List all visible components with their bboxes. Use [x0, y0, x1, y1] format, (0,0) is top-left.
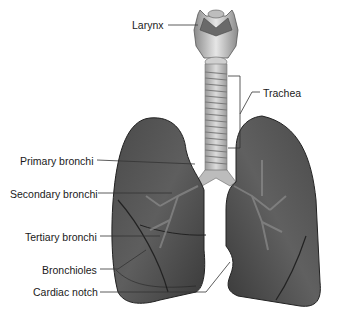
label-bronchioles: Bronchioles [42, 264, 97, 276]
larynx-shape [194, 10, 238, 67]
trachea-shape [196, 64, 236, 186]
left-lung-shape [112, 118, 206, 303]
label-secondary-bronchi: Secondary bronchi [10, 188, 98, 200]
label-tertiary-bronchi: Tertiary bronchi [25, 231, 97, 243]
label-trachea: Trachea [263, 87, 301, 99]
label-primary-bronchi: Primary bronchi [20, 155, 94, 167]
label-cardiac-notch: Cardiac notch [33, 286, 98, 298]
label-larynx: Larynx [132, 19, 164, 31]
respiratory-diagram: Larynx Trachea Primary bronchi Secondary… [0, 0, 338, 320]
